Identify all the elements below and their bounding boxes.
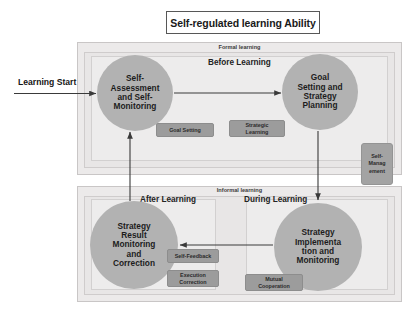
diagram-title: Self-regulated learning Ability [166, 11, 320, 34]
diagram-canvas: Self-regulated learning Ability Formal l… [0, 0, 404, 314]
chip-self-feedback: Self-Feedback [167, 249, 219, 263]
entry-label-learning-start: Learning Start [18, 77, 76, 87]
chip-mutual-cooperation: Mutual Cooperation [245, 274, 303, 291]
node-strategy-result-monitoring-label: Strategy Result Monitoring and Correctio… [111, 222, 158, 269]
node-self-assessment: Self- Assessment and Self- Monitoring [97, 55, 173, 131]
node-goal-setting-strategy-planning: Goal Setting and Strategy Planning [282, 54, 358, 130]
chip-execution-correction: Execution Correction [167, 270, 219, 287]
node-goal-setting-strategy-planning-label: Goal Setting and Strategy Planning [295, 73, 344, 111]
chip-goal-setting: Goal Setting [156, 123, 214, 137]
node-strategy-implementation-label: Strategy Implementa tion and Monitoring [293, 228, 343, 266]
chip-strategic-learning: Strategic Learning [229, 120, 285, 137]
node-self-assessment-label: Self- Assessment and Self- Monitoring [109, 74, 162, 112]
phase-during-learning-caption: During Learning [244, 195, 307, 204]
panel-informal-learning-caption: Informal learning [77, 187, 402, 193]
chip-self-management: Self- Manag ement [361, 143, 393, 185]
panel-formal-learning-caption: Formal learning [77, 44, 402, 50]
node-strategy-result-monitoring: Strategy Result Monitoring and Correctio… [90, 201, 178, 289]
